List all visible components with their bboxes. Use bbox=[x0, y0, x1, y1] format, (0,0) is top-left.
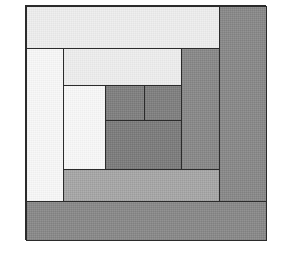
log-right-outer bbox=[219, 6, 267, 220]
log-right-round2 bbox=[181, 48, 220, 170]
log-bottom-outer bbox=[26, 201, 267, 241]
log-top-round2 bbox=[63, 48, 182, 86]
log-bottom-round2 bbox=[63, 169, 220, 202]
log-left-round2 bbox=[26, 48, 64, 202]
center-square-left bbox=[105, 85, 145, 121]
log-left-round3 bbox=[63, 85, 106, 170]
center-square-right bbox=[144, 85, 182, 121]
center-bar-bottom bbox=[105, 120, 182, 170]
quilt-image-canvas bbox=[0, 0, 282, 259]
log-top-outer bbox=[26, 6, 220, 49]
log-cabin-block bbox=[25, 5, 266, 240]
